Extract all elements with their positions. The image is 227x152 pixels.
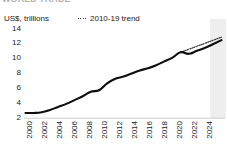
chart-figure: WORLD TRADE US$, trillions 2010-19 trend… xyxy=(0,0,227,152)
chart-plot-area xyxy=(0,0,227,152)
world-trade-line-series xyxy=(26,40,222,113)
projection-shaded-band xyxy=(210,19,226,118)
